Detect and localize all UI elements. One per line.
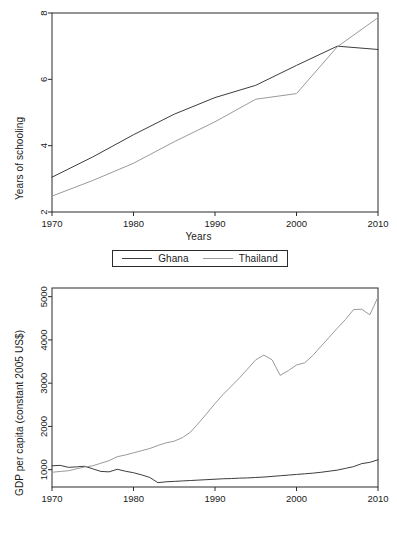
schooling-x-tick-label: 1990 [204,218,225,228]
schooling-legend: Ghana Thailand [112,250,288,267]
gdp-x-tick-label: 1990 [204,493,225,504]
schooling-y-tick-label: 4 [38,143,49,148]
schooling-plot-area: 246819701980199020002010 [0,0,397,228]
schooling-y-tick-label: 2 [38,209,49,214]
schooling-y-axis-title: Years of schooling [14,117,25,200]
schooling-y-tick-label: 6 [38,77,49,82]
schooling-x-tick-label: 2000 [286,218,307,228]
schooling-x-tick-label: 1970 [41,218,62,228]
schooling-plot-frame [52,13,378,212]
gdp-plot-area: 1000200030004000500019701980199020002010 [0,280,397,506]
chart-years-of-schooling: 246819701980199020002010 Years of school… [0,0,397,280]
legend-line-swatch-thailand [203,258,233,259]
gdp-x-tick-label: 1970 [41,493,62,504]
gdp-y-tick-label: 1000 [38,459,49,480]
gdp-y-tick-label: 5000 [38,286,49,307]
schooling-y-tick-label: 8 [38,10,49,15]
gdp-plot-canvas: 1000200030004000500019701980199020002010 [0,280,397,506]
schooling-plot-canvas: 246819701980199020002010 [0,0,397,228]
gdp-y-tick-label: 2000 [38,416,49,437]
schooling-legend-item-ghana: Ghana [115,253,196,264]
schooling-x-tick-label: 2010 [367,218,388,228]
gdp-plot-frame [52,288,378,487]
schooling-x-tick-label: 1980 [123,218,144,228]
gdp-y-axis-title: GDP per capita (constant 2005 US$) [14,330,25,496]
gdp-x-tick-label: 2010 [367,493,388,504]
gdp-x-tick-label: 1980 [123,493,144,504]
legend-line-swatch-ghana [122,258,152,259]
schooling-x-axis-title: Years [0,231,397,242]
chart-gdp-per-capita: 1000200030004000500019701980199020002010… [0,280,397,556]
schooling-legend-label-thailand: Thailand [239,253,278,264]
gdp-x-tick-label: 2000 [286,493,307,504]
gdp-y-tick-label: 3000 [38,373,49,394]
schooling-series-ghana [52,46,378,177]
schooling-legend-item-thailand: Thailand [196,253,285,264]
gdp-y-tick-label: 4000 [38,329,49,350]
schooling-series-thailand [52,18,378,196]
schooling-legend-label-ghana: Ghana [158,253,189,264]
gdp-series-thailand [52,297,378,472]
